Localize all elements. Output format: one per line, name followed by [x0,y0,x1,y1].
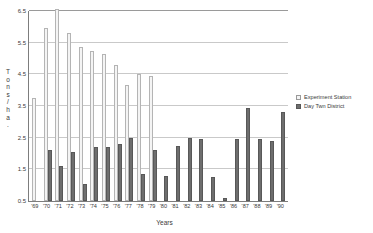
x-axis-tick-label: '69 [29,203,41,209]
bar-group [42,11,54,201]
legend-swatch [296,104,301,109]
y-axis-title-char: o [2,76,14,84]
y-axis-title-char: a [2,114,14,122]
x-axis-tick-label: '74 [87,203,99,209]
x-axis-tick-labels: '69'70'71'72'73'74'75'76'77'78'79'80'81'… [28,203,287,209]
legend-item: Day Twn District [296,103,351,109]
y-axis-title-char: / [2,98,14,106]
x-axis-tick-label: '88 [251,203,263,209]
x-axis-title: Years [0,219,373,226]
bar-groups [29,11,288,201]
bar [258,139,262,201]
x-axis-tick-label: '78 [134,203,146,209]
y-axis-tick-label: 3.5 [18,103,26,109]
bar [153,150,157,201]
x-axis-tick-label: '72 [64,203,76,209]
x-axis-tick-label: '84 [204,203,216,209]
bar-group [217,11,229,201]
bar-group [135,11,147,201]
bar-group [77,11,89,201]
bar-chart: Tons/ha. 0.51.52.53.54.55.56.5 '69'70'71… [0,0,373,233]
bar [246,108,250,201]
x-axis-tick-label: '70 [41,203,53,209]
x-axis-title-text: Years [156,219,172,226]
bar [59,166,63,201]
bar-group [124,11,136,201]
bar-group [264,11,276,201]
x-axis-tick-label: '77 [123,203,135,209]
y-axis-title-char: T [2,68,14,76]
bar-group [100,11,112,201]
x-axis-tick-label: '87 [239,203,251,209]
bar [79,47,83,201]
x-axis-tick-label: '73 [76,203,88,209]
x-axis-tick-label: '90 [274,203,286,209]
x-axis-tick-label: '83 [193,203,205,209]
y-axis-tick-label: 4.5 [18,71,26,77]
bar-group [275,11,287,201]
bar [32,98,36,201]
plot-area: 0.51.52.53.54.55.56.5 [28,11,288,202]
bar [235,139,239,201]
bar-group [229,11,241,201]
bar-group [252,11,264,201]
bar-group [65,11,77,201]
bar [118,144,122,201]
bar-group [194,11,206,201]
x-axis-tick-label: '86 [228,203,240,209]
bar [223,198,227,201]
x-axis-tick-label: '81 [169,203,181,209]
x-axis-tick-label: '82 [181,203,193,209]
bar [176,146,180,201]
legend-item: Experiment Station [296,94,351,100]
x-axis-tick-label: '71 [52,203,64,209]
y-axis-tick-label: 2.5 [18,135,26,141]
bar-group [88,11,100,201]
bar [281,112,285,201]
bar [141,174,145,201]
legend-label: Day Twn District [304,103,344,109]
bar [106,147,110,201]
bar-group [159,11,171,201]
bar-group [53,11,65,201]
x-axis-tick-label: '79 [146,203,158,209]
bar [71,152,75,201]
bar [129,138,133,201]
y-axis-tick-label: 6.5 [18,8,26,14]
bar [48,150,52,201]
legend-swatch [296,95,301,100]
y-axis-tick-label: 1.5 [18,166,26,172]
bar-group [205,11,217,201]
x-axis-tick-label: '85 [216,203,228,209]
y-axis-title-char: h [2,106,14,114]
y-axis-title-char: n [2,83,14,91]
bar [211,177,215,201]
y-axis-tick-label: 5.5 [18,40,26,46]
bar [164,176,168,201]
bar-group [112,11,124,201]
x-axis-tick-label: '76 [111,203,123,209]
bar-group [170,11,182,201]
bar [270,141,274,201]
bar-group [182,11,194,201]
bar [199,139,203,201]
bar [94,147,98,201]
bar-group [240,11,252,201]
y-axis-title-char: s [2,91,14,99]
x-axis-tick-label: '80 [158,203,170,209]
bar [188,138,192,201]
legend: Experiment StationDay Twn District [296,94,351,109]
y-axis-tick-label: 0.5 [18,198,26,204]
legend-label: Experiment Station [304,94,351,100]
x-axis-tick-label: '89 [263,203,275,209]
x-axis-tick-label: '75 [99,203,111,209]
bar-group [30,11,42,201]
bar-group [147,11,159,201]
y-axis-title: Tons/ha. [2,68,14,129]
y-axis-title-char: . [2,121,14,129]
bar [83,184,87,201]
